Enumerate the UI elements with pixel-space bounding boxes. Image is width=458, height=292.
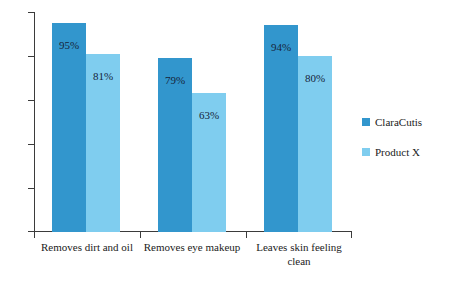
x-axis-tick: [246, 232, 247, 238]
x-axis-tick: [351, 232, 352, 238]
bar-value-label: 81%: [86, 70, 120, 82]
bar-claracutis-removes-eye-makeup[interactable]: 79%: [158, 58, 192, 232]
bar-value-label: 80%: [298, 72, 332, 84]
bar-value-label: 95%: [52, 39, 86, 51]
bar-product-x-removes-eye-makeup[interactable]: 63%: [192, 93, 226, 232]
legend-swatch-icon: [362, 118, 370, 126]
x-axis-category-label: Leaves skin feeling clean: [244, 240, 354, 268]
legend-label: Product X: [375, 146, 420, 158]
x-axis-category-label: Removes eye makeup: [142, 240, 242, 254]
legend-item-claracutis[interactable]: ClaraCutis: [362, 116, 422, 128]
legend-label: ClaraCutis: [375, 116, 422, 128]
x-axis-category-label: Removes dirt and oil: [34, 240, 140, 254]
legend-swatch-icon: [362, 148, 370, 156]
bar-value-label: 94%: [264, 41, 298, 53]
chart-legend: ClaraCutis Product X: [362, 116, 422, 176]
legend-item-product-x[interactable]: Product X: [362, 146, 422, 158]
bar-product-x-leaves-skin-feeling-clean[interactable]: 80%: [298, 56, 332, 232]
plot-area: 95% 81% 79% 63% 94% 80%: [34, 12, 352, 232]
bar-claracutis-leaves-skin-feeling-clean[interactable]: 94%: [264, 25, 298, 232]
chart-container: 95% 81% 79% 63% 94% 80% Removes dirt and…: [0, 0, 458, 292]
bar-claracutis-removes-dirt-and-oil[interactable]: 95%: [52, 23, 86, 232]
bar-value-label: 63%: [192, 109, 226, 121]
bar-value-label: 79%: [158, 74, 192, 86]
x-axis-tick: [34, 232, 35, 238]
bar-product-x-removes-dirt-and-oil[interactable]: 81%: [86, 54, 120, 232]
x-axis-tick: [140, 232, 141, 238]
